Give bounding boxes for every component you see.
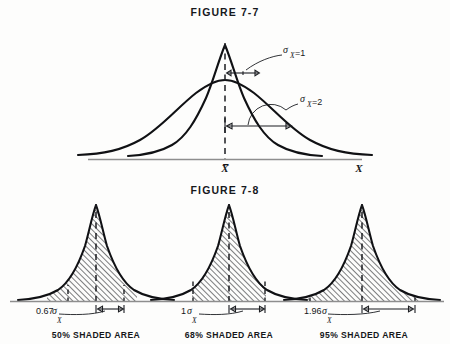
sigma-subscript-95: X bbox=[326, 316, 332, 325]
multiplier-label-68: 1 σ X bbox=[181, 305, 197, 325]
figure-7-7-title: FIGURE 7-7 bbox=[191, 6, 260, 18]
sigma-symbol-68: σ bbox=[187, 305, 193, 316]
sigma-2-dimension-arrow bbox=[225, 118, 292, 133]
figure-7-7: FIGURE 7-7 σ X =1 bbox=[0, 0, 450, 178]
mean-axis-label: X̅ bbox=[220, 162, 229, 174]
multiplier-value-68: 1 bbox=[181, 306, 186, 316]
multiplier-label-95: 1.96 σ X bbox=[304, 305, 332, 325]
figure-7-8-title: FIGURE 7-8 bbox=[191, 184, 260, 196]
multiplier-label-50: 0.67 σ X bbox=[36, 305, 62, 325]
sigma-2-leader-line bbox=[286, 104, 298, 110]
sigma-symbol-95: σ bbox=[322, 305, 328, 316]
panel-68-percent: 1 σ X 68% SHADED AREA bbox=[151, 204, 307, 340]
figure-7-8: FIGURE 7-8 0.67 σ bbox=[0, 178, 450, 344]
caption-50: 50% SHADED AREA bbox=[52, 330, 140, 340]
multiplier-value-95: 1.96 bbox=[304, 306, 322, 316]
sigma-symbol-50: σ bbox=[52, 305, 58, 316]
caption-95: 95% SHADED AREA bbox=[320, 330, 408, 340]
leader-line-95 bbox=[328, 311, 380, 315]
sigma-1-label: σ X =1 bbox=[283, 44, 305, 60]
sigma-2-symbol: σ bbox=[300, 93, 306, 104]
multiplier-value-50: 0.67 bbox=[36, 306, 54, 316]
panel-50-percent: 0.67 σ X 50% SHADED AREA bbox=[18, 204, 174, 340]
figure-7-8-canvas: FIGURE 7-8 0.67 σ bbox=[0, 178, 450, 344]
sigma-subscript-68: X bbox=[191, 316, 197, 325]
sigma-1-dimension-arrow bbox=[227, 70, 260, 76]
dimension-arrow-68 bbox=[229, 305, 265, 313]
caption-68: 68% SHADED AREA bbox=[185, 330, 273, 340]
sigma-1-value: =1 bbox=[295, 48, 305, 58]
sigma-2-value: =2 bbox=[312, 97, 322, 107]
leader-line-68 bbox=[199, 311, 243, 315]
figure-7-7-canvas: FIGURE 7-7 σ X =1 bbox=[0, 0, 450, 178]
leader-line-50 bbox=[59, 311, 105, 315]
figure-plate: FIGURE 7-7 σ X =1 bbox=[0, 0, 450, 344]
x-axis-label: X bbox=[354, 162, 363, 174]
sigma-2-label: σ X =2 bbox=[300, 93, 322, 109]
sigma-1-symbol: σ bbox=[283, 44, 289, 55]
sigma-subscript-50: X bbox=[56, 316, 62, 325]
sigma-1-leader-line bbox=[246, 55, 282, 70]
dimension-arrow-95 bbox=[362, 305, 415, 313]
sigma-2-arc-leader bbox=[248, 104, 286, 125]
panel-95-percent: 1.96 σ X 95% SHADED AREA bbox=[284, 204, 440, 340]
